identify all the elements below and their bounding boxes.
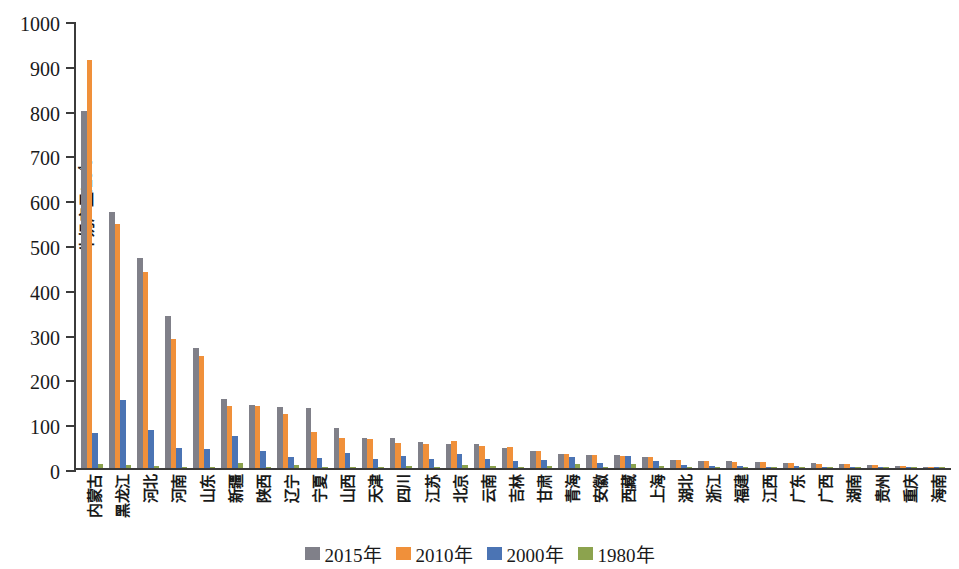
x-axis-label: 山西 bbox=[336, 474, 357, 503]
x-axis-label-cell: 广西 bbox=[810, 472, 838, 538]
bar-group bbox=[446, 22, 474, 468]
y-axis-tick-label: 600 bbox=[30, 192, 60, 215]
x-axis-label: 甘肃 bbox=[533, 474, 554, 503]
bar-1980年 bbox=[378, 467, 384, 468]
bar-group bbox=[867, 22, 895, 468]
x-axis-label: 湖北 bbox=[674, 474, 695, 503]
bar-group bbox=[783, 22, 811, 468]
x-axis-label-cell: 四川 bbox=[388, 472, 416, 538]
y-axis-tick-label: 700 bbox=[30, 147, 60, 170]
legend-label: 1980年 bbox=[598, 540, 655, 567]
x-axis-label-cell: 天津 bbox=[360, 472, 388, 538]
x-axis-label: 吉林 bbox=[505, 474, 526, 503]
bar-group bbox=[923, 22, 951, 468]
bar-1980年 bbox=[827, 467, 833, 468]
x-axis-label: 重庆 bbox=[899, 474, 920, 503]
x-axis-label-cell: 云南 bbox=[473, 472, 501, 538]
bar-group bbox=[165, 22, 193, 468]
x-axis-label-cell: 海南 bbox=[923, 472, 951, 538]
y-axis-tick-label: 500 bbox=[30, 237, 60, 260]
x-axis-label: 贵州 bbox=[871, 474, 892, 503]
legend-swatch bbox=[396, 547, 411, 560]
x-axis-label: 天津 bbox=[364, 474, 385, 503]
x-axis-labels: 内蒙古黑龙江河北河南山东新疆陕西辽宁宁夏山西天津四川江苏北京云南吉林甘肃青海安徽… bbox=[74, 472, 951, 538]
x-axis-label: 广西 bbox=[814, 474, 835, 503]
legend-label: 2010年 bbox=[416, 540, 473, 567]
x-axis-label-cell: 陕西 bbox=[248, 472, 276, 538]
bar-group bbox=[502, 22, 530, 468]
bar-group bbox=[193, 22, 221, 468]
x-axis-label-cell: 青海 bbox=[557, 472, 585, 538]
bar-group bbox=[670, 22, 698, 468]
y-axis-tick: 700 bbox=[66, 156, 76, 158]
x-axis-label: 山东 bbox=[196, 474, 217, 503]
legend-label: 2000年 bbox=[507, 540, 564, 567]
x-axis-label: 河南 bbox=[167, 474, 188, 503]
x-axis-label-cell: 广东 bbox=[782, 472, 810, 538]
y-axis-tick: 400 bbox=[66, 291, 76, 293]
bar-group bbox=[698, 22, 726, 468]
bar-1980年 bbox=[462, 465, 468, 468]
bar-group bbox=[811, 22, 839, 468]
bar-1980年 bbox=[743, 467, 749, 468]
legend-item[interactable]: 2010年 bbox=[396, 540, 473, 567]
legend-item[interactable]: 2000年 bbox=[487, 540, 564, 567]
x-axis-label: 广东 bbox=[786, 474, 807, 503]
legend-item[interactable]: 1980年 bbox=[578, 540, 655, 567]
x-axis-label-cell: 吉林 bbox=[501, 472, 529, 538]
legend-label: 2015年 bbox=[325, 540, 382, 567]
bar-1980年 bbox=[687, 467, 693, 468]
x-axis-label: 西藏 bbox=[617, 474, 638, 503]
y-axis-tick-label: 400 bbox=[30, 282, 60, 305]
x-axis-label: 北京 bbox=[449, 474, 470, 503]
x-axis-label-cell: 河南 bbox=[163, 472, 191, 538]
bar-2010年 bbox=[87, 60, 93, 468]
x-axis-label-cell: 河北 bbox=[135, 472, 163, 538]
x-axis-label-cell: 北京 bbox=[445, 472, 473, 538]
x-axis-label: 青海 bbox=[561, 474, 582, 503]
bar-1980年 bbox=[238, 463, 244, 468]
x-axis-label-cell: 贵州 bbox=[867, 472, 895, 538]
x-axis-label-cell: 宁夏 bbox=[304, 472, 332, 538]
bar-1980年 bbox=[518, 467, 524, 468]
plot-area: 01002003004005006007008009001000 bbox=[74, 22, 951, 470]
x-axis-label-cell: 江西 bbox=[754, 472, 782, 538]
bar-group bbox=[221, 22, 249, 468]
bar-1980年 bbox=[98, 464, 104, 468]
bar-1980年 bbox=[939, 467, 945, 468]
bar-1980年 bbox=[771, 467, 777, 468]
bar-1980年 bbox=[799, 467, 805, 468]
bar-group bbox=[390, 22, 418, 468]
y-axis-tick-label: 300 bbox=[30, 327, 60, 350]
legend-swatch bbox=[487, 547, 502, 560]
x-axis-label: 江西 bbox=[758, 474, 779, 503]
legend-item[interactable]: 2015年 bbox=[305, 540, 382, 567]
bar-1980年 bbox=[855, 467, 861, 468]
x-axis-label: 黑龙江 bbox=[111, 474, 132, 518]
y-axis-tick-label: 200 bbox=[30, 371, 60, 394]
bar-1980年 bbox=[322, 467, 328, 468]
bar-1980年 bbox=[294, 465, 300, 468]
x-axis-label: 四川 bbox=[392, 474, 413, 503]
bar-group bbox=[474, 22, 502, 468]
bar-group bbox=[614, 22, 642, 468]
x-axis-label-cell: 湖北 bbox=[670, 472, 698, 538]
bar-1980年 bbox=[715, 467, 721, 468]
x-axis-label: 新疆 bbox=[224, 474, 245, 503]
bar-1980年 bbox=[603, 467, 609, 468]
bar-1980年 bbox=[350, 467, 356, 468]
bar-group bbox=[418, 22, 446, 468]
x-axis-label: 云南 bbox=[477, 474, 498, 503]
x-axis-label-cell: 重庆 bbox=[895, 472, 923, 538]
legend-swatch bbox=[305, 547, 320, 560]
bar-series-container bbox=[76, 22, 951, 468]
bar-2000年 bbox=[92, 433, 98, 468]
bar-1980年 bbox=[631, 464, 637, 468]
y-axis-tick: 100 bbox=[66, 425, 76, 427]
bar-group bbox=[362, 22, 390, 468]
x-axis-label-cell: 甘肃 bbox=[529, 472, 557, 538]
bar-group bbox=[109, 22, 137, 468]
bar-1980年 bbox=[266, 467, 272, 468]
x-axis-label-cell: 辽宁 bbox=[276, 472, 304, 538]
x-axis-label: 陕西 bbox=[252, 474, 273, 503]
